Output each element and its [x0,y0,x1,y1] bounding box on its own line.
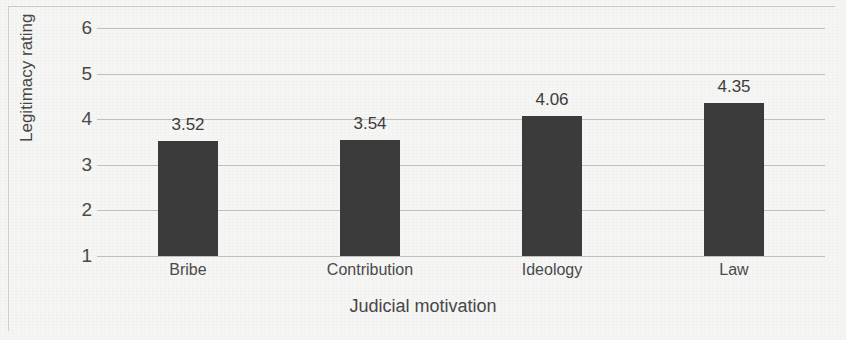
bar[interactable] [704,103,764,256]
y-axis-title: Legitimacy rating [17,13,37,142]
bar-chart-figure: Legitimacy rating 123456 3.523.544.064.3… [0,0,846,340]
bar-slot: 4.35 [643,28,825,256]
y-axis-tick-labels: 123456 [56,28,92,256]
bar-slot: 4.06 [461,28,643,256]
bar-value-label: 4.06 [535,90,568,110]
y-tick-label: 4 [81,108,92,130]
x-tick-label: Bribe [169,261,206,278]
bar-value-label: 4.35 [717,77,750,97]
x-tick-slot: Contribution [279,261,461,279]
x-axis-tick-labels: BribeContributionIdeologyLaw [97,261,825,287]
y-tick-label: 5 [81,63,92,85]
scan-frame-top-border [8,6,835,7]
bar-value-label: 3.54 [353,114,386,134]
x-tick-slot: Bribe [97,261,279,279]
x-tick-label: Ideology [522,261,583,278]
x-tick-slot: Ideology [461,261,643,279]
y-tick-label: 6 [81,17,92,39]
x-axis-title: Judicial motivation [0,296,846,317]
x-tick-slot: Law [643,261,825,279]
bar-slot: 3.54 [279,28,461,256]
bar[interactable] [522,116,582,256]
bar[interactable] [158,141,218,256]
x-tick-label: Contribution [327,261,413,278]
gridline [97,256,825,257]
y-tick-label: 2 [81,199,92,221]
plot-area: 3.523.544.064.35 [97,28,825,256]
x-tick-label: Law [719,261,748,278]
scan-frame-left-border [8,6,9,331]
bar-value-label: 3.52 [171,115,204,135]
y-tick-label: 1 [81,245,92,267]
bar-slot: 3.52 [97,28,279,256]
bar[interactable] [340,140,400,256]
y-tick-label: 3 [81,154,92,176]
